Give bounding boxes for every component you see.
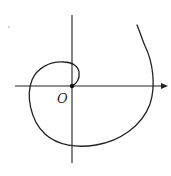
- spiral-diagram: O: [0, 0, 171, 176]
- origin-dot: [70, 84, 74, 88]
- x-axis-arrow-icon: [161, 83, 168, 89]
- origin-label: O: [57, 92, 68, 105]
- diagram-canvas: [0, 0, 171, 176]
- speck-mark: [8, 26, 10, 28]
